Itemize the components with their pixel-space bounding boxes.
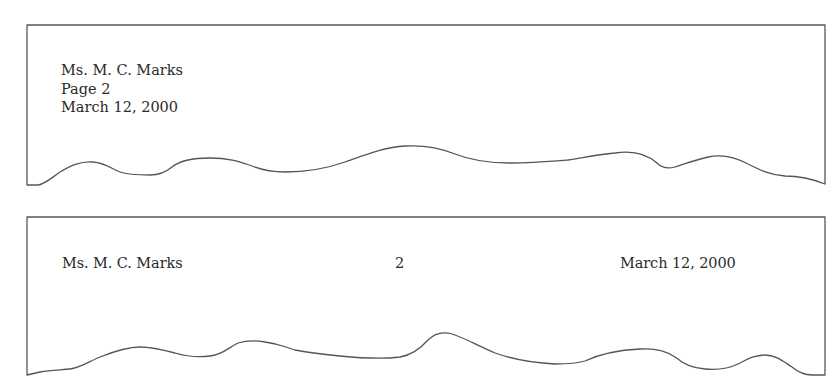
vertical-heading-block: Ms. M. C. Marks Page 2 March 12, 2000 — [61, 61, 183, 117]
illustration-canvas — [0, 0, 840, 392]
recipient-name-horizontal: Ms. M. C. Marks — [62, 254, 183, 272]
recipient-name: Ms. M. C. Marks — [61, 61, 183, 80]
letter-date: March 12, 2000 — [61, 98, 183, 117]
letter-date-horizontal: March 12, 2000 — [620, 254, 736, 272]
page-number-horizontal: 2 — [395, 254, 404, 272]
page-number-label: Page 2 — [61, 80, 183, 99]
torn-page-outline-horizontal — [27, 217, 825, 375]
